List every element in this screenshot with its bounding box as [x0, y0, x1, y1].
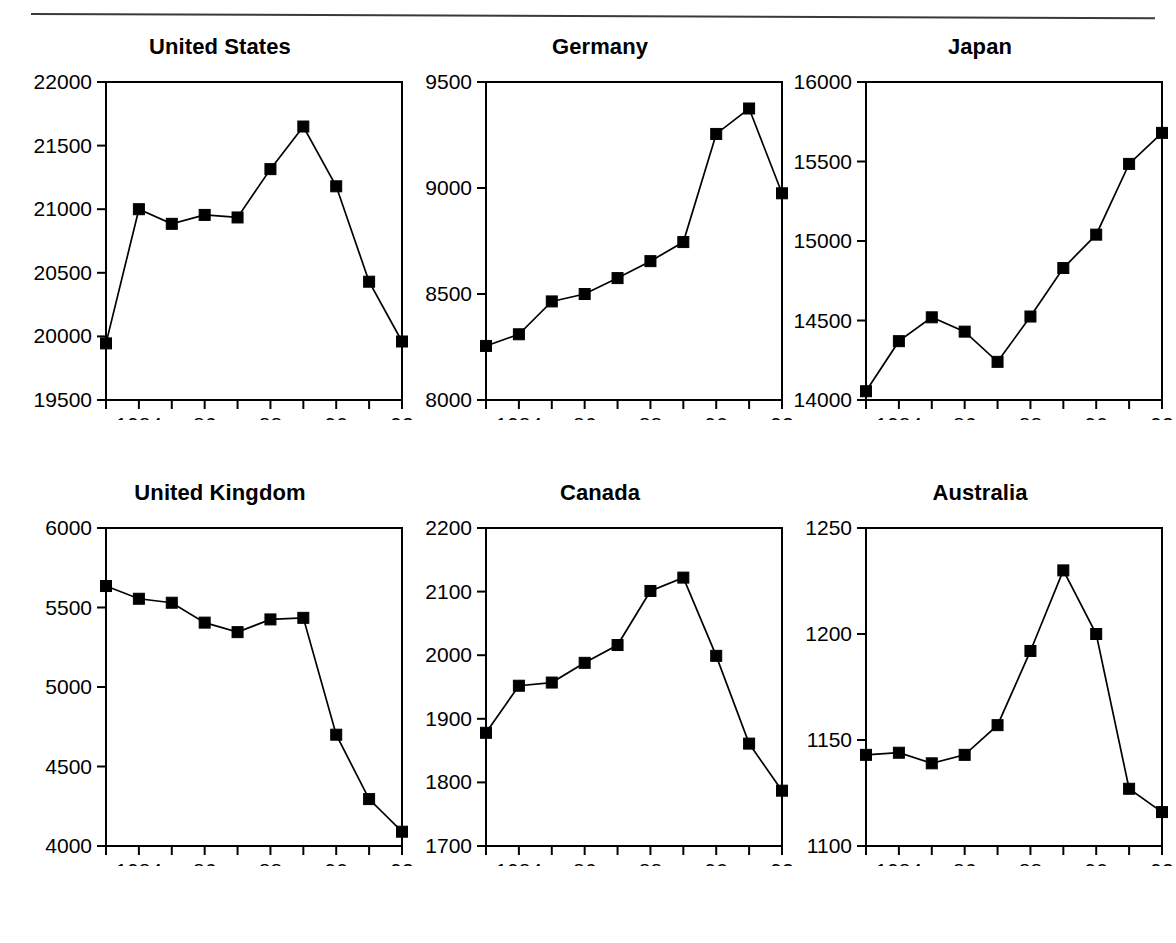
series-line [866, 570, 1162, 812]
line-chart-svg: 1950020000205002100021500220001984868890… [24, 60, 416, 420]
x-tick-label: 86 [573, 413, 596, 420]
data-point-marker [481, 340, 492, 351]
y-tick-label: 19500 [34, 388, 92, 411]
data-point-marker [1124, 783, 1135, 794]
data-point-marker [579, 657, 590, 668]
y-tick-label: 4000 [45, 834, 92, 857]
data-point-marker [893, 747, 904, 758]
data-point-marker [861, 386, 872, 397]
x-tick-label: 88 [259, 413, 282, 420]
x-tick-label: 86 [573, 859, 596, 866]
x-tick-label: 86 [953, 413, 976, 420]
axis-frame [486, 528, 782, 846]
y-tick-label: 1800 [425, 770, 472, 793]
data-point-marker [331, 181, 342, 192]
series-line [486, 578, 782, 791]
data-point-marker [481, 727, 492, 738]
data-point-marker [199, 617, 210, 628]
y-tick-label: 21000 [34, 197, 92, 220]
data-point-marker [1124, 158, 1135, 169]
data-point-marker [298, 612, 309, 623]
y-tick-label: 1150 [807, 728, 852, 751]
data-point-marker [1091, 629, 1102, 640]
chart-title: Australia [784, 480, 1176, 506]
data-point-marker [612, 640, 623, 651]
y-tick-label: 2000 [425, 643, 472, 666]
x-tick-label: 88 [639, 413, 662, 420]
series-line [866, 133, 1162, 391]
data-point-marker [893, 336, 904, 347]
plot-area: 1100115012001250198486889092 [784, 506, 1176, 866]
data-point-marker [861, 749, 872, 760]
x-tick-label: 92 [1150, 859, 1173, 866]
data-point-marker [166, 218, 177, 229]
data-point-marker [232, 627, 243, 638]
data-point-marker [1025, 645, 1036, 656]
x-tick-label: 1984 [116, 413, 163, 420]
chart-title: Japan [784, 34, 1176, 60]
y-tick-label: 15000 [794, 229, 852, 252]
plot-area: 1400014500150001550016000198486889092 [784, 60, 1176, 420]
chart-title: United States [24, 34, 416, 60]
x-tick-label: 1984 [876, 859, 923, 866]
data-point-marker [678, 572, 689, 583]
x-tick-label: 88 [259, 859, 282, 866]
plot-area: 40004500500055006000198486889092 [24, 506, 416, 866]
data-point-marker [1157, 127, 1168, 138]
chart-panel-germany: Germany8000850090009500198486889092 [404, 34, 796, 484]
data-point-marker [364, 276, 375, 287]
data-point-marker [744, 103, 755, 114]
x-tick-label: 90 [705, 413, 728, 420]
series-line [106, 586, 402, 832]
data-point-marker [992, 356, 1003, 367]
chart-panel-united-states: United States195002000020500210002150022… [24, 34, 416, 484]
y-tick-label: 5000 [45, 675, 92, 698]
chart-panel-canada: Canada1700180019002000210022001984868890… [404, 480, 796, 930]
chart-panel-grid: United States195002000020500210002150022… [0, 34, 1176, 934]
data-point-marker [546, 296, 557, 307]
y-tick-label: 5500 [45, 596, 92, 619]
data-point-marker [612, 273, 623, 284]
page-header-strip [0, 0, 1176, 9]
data-point-marker [959, 326, 970, 337]
data-point-marker [298, 121, 309, 132]
data-point-marker [1157, 807, 1168, 818]
y-tick-label: 8000 [425, 388, 472, 411]
data-point-marker [364, 794, 375, 805]
y-tick-label: 4500 [45, 755, 92, 778]
x-tick-label: 90 [1085, 413, 1108, 420]
x-tick-label: 1984 [876, 413, 923, 420]
x-tick-label: 90 [705, 859, 728, 866]
line-chart-svg: 1100115012001250198486889092 [784, 506, 1176, 866]
y-tick-label: 14000 [794, 388, 852, 411]
line-chart-svg: 1400014500150001550016000198486889092 [784, 60, 1176, 420]
y-tick-label: 20500 [34, 261, 92, 284]
data-point-marker [711, 128, 722, 139]
plot-area: 170018001900200021002200198486889092 [404, 506, 796, 866]
data-point-marker [645, 256, 656, 267]
x-tick-label: 92 [1150, 413, 1173, 420]
data-point-marker [926, 312, 937, 323]
y-tick-label: 2200 [425, 516, 472, 539]
y-tick-label: 20000 [34, 324, 92, 347]
y-tick-label: 9500 [425, 70, 472, 93]
data-point-marker [1058, 565, 1069, 576]
data-point-marker [513, 680, 524, 691]
axis-frame [106, 528, 402, 846]
y-tick-label: 1900 [425, 707, 472, 730]
chart-panel-japan: Japan14000145001500015500160001984868890… [784, 34, 1176, 484]
series-line [486, 109, 782, 346]
y-tick-label: 16000 [794, 70, 852, 93]
y-tick-label: 14500 [794, 309, 852, 332]
x-tick-label: 1984 [496, 859, 543, 866]
x-tick-label: 88 [1019, 413, 1042, 420]
x-tick-label: 90 [325, 859, 348, 866]
x-tick-label: 90 [1085, 859, 1108, 866]
data-point-marker [199, 209, 210, 220]
data-point-marker [513, 329, 524, 340]
data-point-marker [546, 677, 557, 688]
data-point-marker [265, 164, 276, 175]
line-chart-svg: 40004500500055006000198486889092 [24, 506, 416, 866]
line-chart-svg: 170018001900200021002200198486889092 [404, 506, 796, 866]
plot-area: 8000850090009500198486889092 [404, 60, 796, 420]
